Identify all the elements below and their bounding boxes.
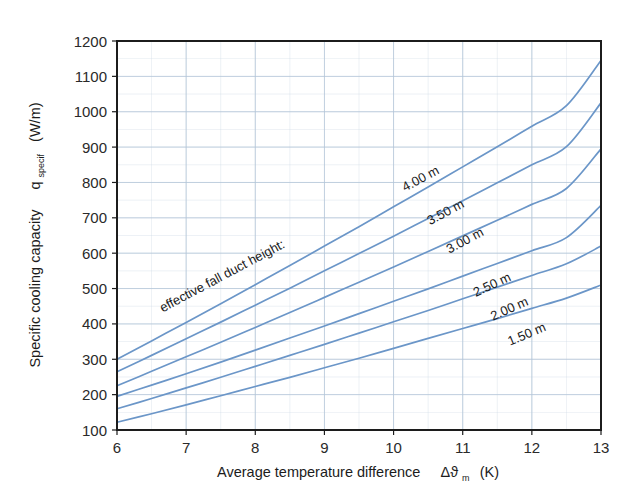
x-axis-tick-label: 7 [182,439,190,456]
y-axis-title-main: Specific cooling capacity [27,209,43,368]
y-axis-unit: (W/m) [27,102,43,141]
y-axis-tick-label: 200 [82,386,107,403]
cooling-capacity-chart: 100200300400500600700800900100011001200 … [0,0,633,498]
x-axis-tick-label: 13 [593,439,610,456]
x-axis-tick-label: 11 [455,439,471,456]
y-axis-tick-label: 1100 [75,68,107,85]
chart-figure: 100200300400500600700800900100011001200 … [0,0,633,498]
x-axis-tick-label: 6 [113,439,121,456]
x-axis-symbol-subscript: m [462,473,470,483]
y-axis-tick-label: 400 [82,315,107,332]
y-axis-tick-label: 800 [82,174,107,191]
x-axis-tick-label: 9 [320,439,328,456]
x-axis-tick-label: 8 [251,439,259,456]
y-axis-tick-label: 600 [82,245,107,262]
y-axis-tick-label: 500 [82,280,107,297]
y-axis-symbol: q [27,181,43,189]
y-axis-tick-label: 100 [82,422,107,439]
x-axis-unit: (K) [480,464,499,480]
x-axis-tick-label: 10 [385,439,402,456]
y-axis-tick-label: 300 [82,351,107,368]
x-axis-tick-label: 12 [524,439,541,456]
x-axis-title-main: Average temperature difference [217,464,420,480]
y-axis-tick-label: 900 [82,139,107,156]
y-axis-symbol-subscript: specif [36,153,46,177]
y-axis-tick-label: 1200 [74,33,107,50]
x-axis-symbol: Δϑ [440,464,458,480]
y-axis-tick-label: 700 [82,209,107,226]
y-axis-tick-label: 1000 [74,103,107,120]
